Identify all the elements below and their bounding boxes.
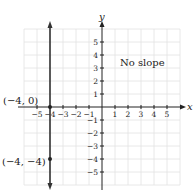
y-axis-label: y [98,11,105,22]
point-neg4-neg4 [48,157,52,161]
svg-text:−2: −2 [70,110,81,119]
svg-text:−3: −3 [87,142,98,151]
point-label-2: (−4, −4) [2,156,46,167]
svg-text:−2: −2 [87,129,98,138]
graph: −5−4 −3−2 −11 23 45 54 32 1−1 −2−3 −4−5 … [0,0,194,194]
svg-text:2: 2 [126,110,131,119]
svg-text:4: 4 [93,51,98,60]
x-axis-arrow-icon [180,105,186,110]
x-tick-labels: −5−4 −3−2 −11 23 45 [31,110,169,119]
point-neg4-0 [48,105,52,109]
svg-text:5: 5 [93,38,98,47]
line-arrow-up-icon [48,21,53,28]
svg-text:−3: −3 [57,110,68,119]
svg-text:−4: −4 [87,155,98,164]
svg-text:3: 3 [93,64,98,73]
x-axis-label: x [187,101,193,112]
svg-text:3: 3 [139,110,144,119]
svg-text:1: 1 [93,90,98,99]
svg-text:5: 5 [165,110,170,119]
svg-text:−1: −1 [87,116,98,125]
svg-text:−5: −5 [31,110,42,119]
point-label-1: (−4, 0) [3,95,38,106]
svg-text:2: 2 [93,77,98,86]
svg-text:1: 1 [113,110,118,119]
svg-text:4: 4 [152,110,157,119]
line-arrow-down-icon [48,183,53,190]
svg-text:−5: −5 [87,168,98,177]
annotation-no-slope: No slope [120,57,165,68]
